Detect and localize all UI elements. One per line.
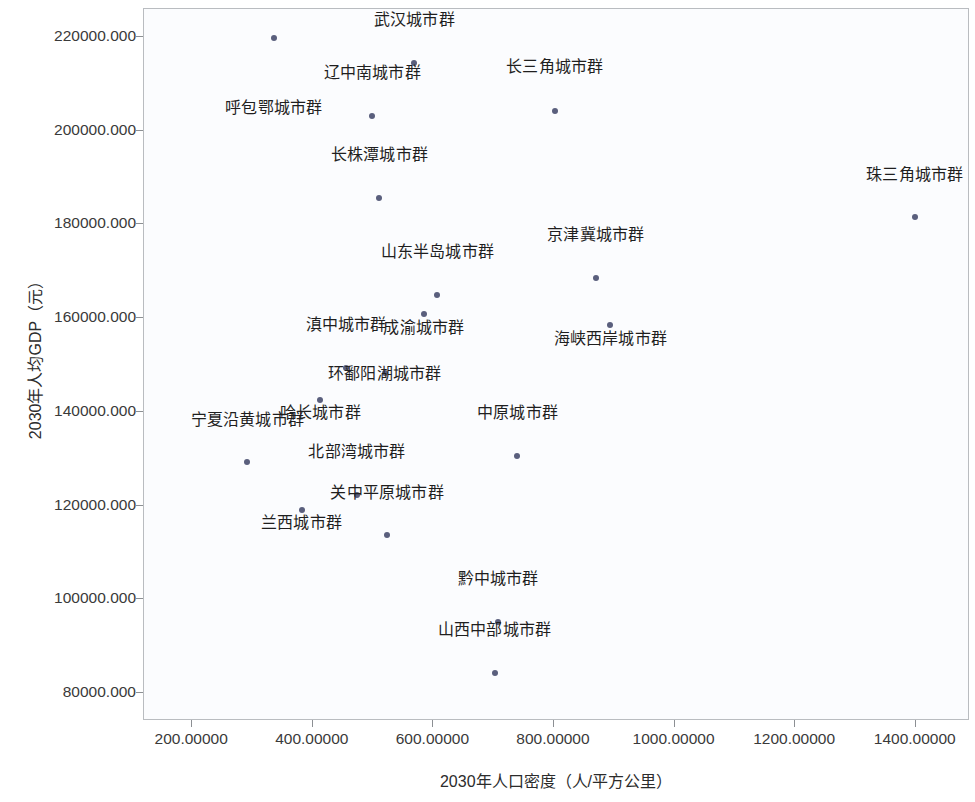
data-point-label: 珠三角城市群 xyxy=(866,161,963,185)
y-tick-mark xyxy=(136,36,143,37)
y-tick-mark xyxy=(136,223,143,224)
y-tick-mark xyxy=(136,692,143,693)
x-tick-label: 200.00000 xyxy=(155,730,228,748)
y-tick-label: 120000.000 xyxy=(54,496,136,514)
y-tick-mark xyxy=(136,411,143,412)
x-tick-mark xyxy=(794,720,795,727)
y-tick-label: 160000.000 xyxy=(54,308,136,326)
x-tick-label: 600.00000 xyxy=(396,730,469,748)
data-point-label: 山西中部城市群 xyxy=(438,616,551,640)
data-point-label: 成渝城市群 xyxy=(383,314,464,338)
data-point-label: 关中平原城市群 xyxy=(330,479,443,503)
x-tick-label: 1200.00000 xyxy=(753,730,835,748)
y-tick-mark xyxy=(136,317,143,318)
data-point-label: 长三角城市群 xyxy=(506,53,603,77)
data-point-label: 山东半岛城市群 xyxy=(381,238,494,262)
y-tick-label: 200000.000 xyxy=(54,121,136,139)
y-tick-label: 140000.000 xyxy=(54,402,136,420)
data-point-label: 长株潭城市群 xyxy=(331,141,428,165)
data-point-label: 滇中城市群 xyxy=(306,311,387,335)
y-tick-label: 180000.000 xyxy=(54,214,136,232)
data-point[interactable] xyxy=(552,108,558,114)
y-tick-mark xyxy=(136,598,143,599)
x-tick-label: 400.00000 xyxy=(275,730,348,748)
x-tick-mark xyxy=(191,720,192,727)
data-point-label: 海峡西岸城市群 xyxy=(554,325,667,349)
scatter-chart: 2030年人均GDP（元） 2030年人口密度（人/平方公里） 80000.00… xyxy=(0,0,975,802)
x-tick-mark xyxy=(432,720,433,727)
y-axis-title: 2030年人均GDP（元） xyxy=(22,0,46,712)
x-tick-mark xyxy=(553,720,554,727)
data-point-label: 呼包鄂城市群 xyxy=(225,94,322,118)
data-point[interactable] xyxy=(271,35,277,41)
data-point-label: 京津冀城市群 xyxy=(547,221,644,245)
x-axis-title: 2030年人口密度（人/平方公里） xyxy=(143,768,969,792)
x-tick-mark xyxy=(312,720,313,727)
y-tick-mark xyxy=(136,505,143,506)
x-tick-mark xyxy=(915,720,916,727)
data-point-label: 北部湾城市群 xyxy=(308,438,405,462)
data-point-label: 环鄱阳湖城市群 xyxy=(328,360,441,384)
x-tick-mark xyxy=(674,720,675,727)
data-point-label: 兰西城市群 xyxy=(261,509,342,533)
data-point[interactable] xyxy=(492,670,498,676)
data-point-label: 辽中南城市群 xyxy=(324,59,421,83)
y-tick-label: 100000.000 xyxy=(54,589,136,607)
y-tick-label: 80000.000 xyxy=(63,683,136,701)
data-point-label: 宁夏沿黄城市群 xyxy=(191,406,304,430)
data-point-label: 中原城市群 xyxy=(477,399,558,423)
data-point-label: 黔中城市群 xyxy=(458,565,539,589)
x-tick-label: 800.00000 xyxy=(516,730,589,748)
data-point[interactable] xyxy=(369,113,375,119)
x-tick-label: 1000.00000 xyxy=(633,730,715,748)
data-point-label: 武汉城市群 xyxy=(374,6,455,30)
y-tick-mark xyxy=(136,130,143,131)
x-tick-label: 1400.00000 xyxy=(874,730,956,748)
y-tick-label: 220000.000 xyxy=(54,27,136,45)
